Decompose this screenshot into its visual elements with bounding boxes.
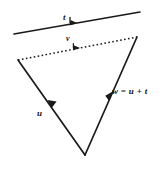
vector-v-label: v [66, 35, 70, 43]
vector-diagram-figure: t v u w = u + t [0, 0, 162, 171]
vector-w-equation-label: w = u + t [112, 87, 147, 96]
vector-u-label: u [37, 109, 42, 118]
vector-t-label: t [63, 13, 66, 22]
vector-t-arrowhead [70, 20, 77, 25]
